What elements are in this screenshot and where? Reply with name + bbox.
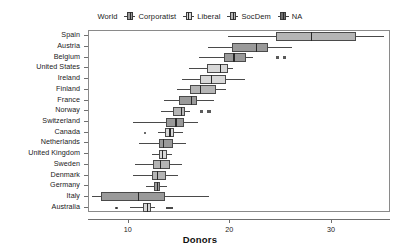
y-axis-label-denmark: Denmark <box>50 171 80 179</box>
x-axis-tick-label: 10 <box>124 225 132 234</box>
boxplot-icon <box>124 12 135 21</box>
whisker-high <box>246 57 253 58</box>
whisker-high <box>216 89 226 90</box>
y-axis-label-canada: Canada <box>55 128 80 136</box>
boxplot-row[interactable] <box>89 160 391 170</box>
whisker-low <box>146 186 154 187</box>
y-axis-label-france: France <box>57 96 80 104</box>
boxplot-row[interactable] <box>89 106 391 116</box>
box-iqr <box>232 43 268 52</box>
boxplot-row[interactable] <box>89 138 391 148</box>
boxplot-row[interactable] <box>89 63 391 73</box>
boxplot-row[interactable] <box>89 85 391 95</box>
whisker-low <box>228 36 276 37</box>
y-axis-label-united-kingdom: United Kingdom <box>28 149 80 157</box>
y-axis-label-spain: Spain <box>61 31 80 39</box>
median-line <box>211 75 212 84</box>
legend-entry-liberal[interactable]: Liberal <box>183 12 220 21</box>
box-iqr <box>276 32 356 41</box>
y-axis-label-sweden: Sweden <box>54 160 80 168</box>
whisker-low <box>92 196 101 197</box>
na-marker <box>283 56 286 59</box>
y-axis-label-austria: Austria <box>57 42 80 50</box>
legend-label-liberal: Liberal <box>197 12 220 21</box>
boxplot-row[interactable] <box>89 192 391 202</box>
whisker-low <box>133 122 167 123</box>
legend-entry-na[interactable]: NA <box>278 12 303 21</box>
boxplot-row[interactable] <box>89 53 391 63</box>
box-iqr <box>152 171 166 180</box>
median-line <box>138 192 139 201</box>
x-axis-tick <box>331 219 332 223</box>
boxplot-row[interactable] <box>89 203 391 213</box>
whisker-high <box>173 143 185 144</box>
na-marker <box>166 207 173 210</box>
whisker-high <box>185 111 190 112</box>
boxplot-icon <box>278 12 289 21</box>
y-axis-label-australia: Australia <box>52 203 80 211</box>
boxplot-row[interactable] <box>89 128 391 138</box>
median-line <box>147 203 148 212</box>
whisker-high <box>268 47 292 48</box>
chart-legend: World Corporatist Liberal SocDem NA <box>0 9 400 23</box>
legend-entry-socdem[interactable]: SocDem <box>227 12 270 21</box>
median-line <box>311 32 312 41</box>
whisker-low <box>158 132 165 133</box>
box-iqr <box>200 75 226 84</box>
whisker-high <box>174 132 182 133</box>
whisker-low <box>133 175 152 176</box>
boxplot-icon <box>227 12 238 21</box>
x-axis-line <box>88 219 390 220</box>
boxplot-row[interactable] <box>89 149 391 159</box>
median-line <box>163 139 164 148</box>
box-iqr <box>190 85 216 94</box>
whisker-high <box>170 164 181 165</box>
y-axis-label-ireland: Ireland <box>58 74 80 82</box>
x-axis-tick <box>229 219 230 223</box>
whisker-low <box>182 79 200 80</box>
whisker-high <box>160 186 167 187</box>
boxplot-row[interactable] <box>89 42 391 52</box>
y-axis-labels: SpainAustriaBelgiumUnited StatesIrelandF… <box>0 30 85 212</box>
y-axis-label-united-states: United States <box>36 63 80 71</box>
outlier-point <box>144 132 146 134</box>
box-iqr <box>153 160 170 169</box>
box-iqr <box>101 192 165 201</box>
whisker-high <box>197 100 214 101</box>
na-marker <box>276 56 279 59</box>
whisker-low <box>139 143 159 144</box>
boxplot-row[interactable] <box>89 31 391 41</box>
median-line <box>191 96 192 105</box>
boxplot-row[interactable] <box>89 171 391 181</box>
whisker-high <box>167 154 172 155</box>
outlier-point <box>115 207 117 209</box>
y-axis-label-finland: Finland <box>56 85 80 93</box>
legend-entry-corporatist[interactable]: Corporatist <box>124 12 176 21</box>
median-line <box>233 53 234 62</box>
whisker-low <box>164 100 179 101</box>
whisker-low <box>177 89 189 90</box>
box-iqr <box>224 53 245 62</box>
whisker-low <box>208 47 232 48</box>
legend-label-socdem: SocDem <box>241 12 270 21</box>
whisker-low <box>130 207 143 208</box>
plot-area <box>88 30 390 212</box>
whisker-high <box>151 207 155 208</box>
legend-label-na: NA <box>292 12 303 21</box>
whisker-high <box>166 175 178 176</box>
x-axis-tick-label: 30 <box>327 225 335 234</box>
x-axis-title: Donors <box>0 234 400 245</box>
boxplot-row[interactable] <box>89 181 391 191</box>
y-axis-label-switzerland: Switzerland <box>42 117 80 125</box>
boxplot-icon <box>183 12 194 21</box>
median-line <box>157 182 158 191</box>
whisker-high <box>165 196 209 197</box>
whisker-high <box>184 122 198 123</box>
boxplot-chart: World Corporatist Liberal SocDem NA <box>0 0 400 251</box>
box-iqr <box>173 107 184 116</box>
median-line <box>256 43 257 52</box>
whisker-low <box>135 164 153 165</box>
boxplot-row[interactable] <box>89 96 391 106</box>
boxplot-row[interactable] <box>89 74 391 84</box>
boxplot-row[interactable] <box>89 117 391 127</box>
